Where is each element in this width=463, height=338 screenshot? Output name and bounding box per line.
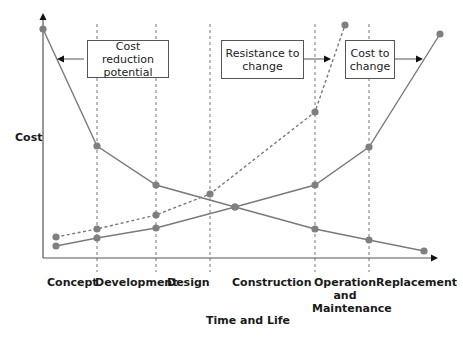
callout-text: Cost reduction [102, 40, 154, 66]
callout-text: Cost to [350, 47, 389, 60]
phase-label-development: Development [95, 276, 177, 289]
callout-text: Resistance to [226, 47, 300, 60]
phase-label-construction: Construction [232, 276, 311, 289]
data-point-marker [341, 21, 348, 28]
callout-cost-to-change: Cost tochange [345, 40, 395, 79]
data-point-marker [152, 211, 159, 218]
phase-text: and [333, 289, 356, 302]
data-point-marker [311, 108, 318, 115]
data-point-marker [436, 30, 443, 37]
y-axis-label: Cost [15, 131, 42, 144]
callout-text: change [242, 60, 282, 73]
x-axis-arrow-icon [431, 255, 438, 262]
callout-text: change [350, 60, 390, 73]
x-axis-label: Time and Life [206, 314, 290, 327]
data-point-marker [93, 142, 100, 149]
phase-text: Operation [314, 276, 376, 289]
data-point-marker [311, 225, 318, 232]
data-point-marker [206, 190, 213, 197]
phase-label-replacement: Replacement [376, 276, 457, 289]
callout-cost-reduction-potential: Cost reductionpotential [87, 40, 169, 78]
callout-resistance-to-change: Resistance tochange [221, 40, 304, 79]
phase-label-concept: Concept [47, 276, 98, 289]
y-axis-arrow-icon [40, 13, 47, 20]
data-point-marker [420, 247, 427, 254]
data-point-marker [365, 236, 372, 243]
callout-text: potential [104, 66, 153, 79]
data-point-marker [152, 224, 159, 231]
data-point-marker [52, 242, 59, 249]
data-point-marker [365, 143, 372, 150]
data-point-marker [152, 181, 159, 188]
phase-label-operation-maintenance: Operation and Maintenance [312, 276, 378, 315]
data-point-marker [311, 181, 318, 188]
phase-label-design: Design [167, 276, 210, 289]
data-point-marker [231, 203, 238, 210]
phase-text: Maintenance [312, 302, 392, 315]
data-point-marker [52, 233, 59, 240]
arrow-right-icon [324, 56, 331, 63]
data-point-marker [93, 234, 100, 241]
data-point-marker [93, 225, 100, 232]
data-point-marker [39, 25, 46, 32]
